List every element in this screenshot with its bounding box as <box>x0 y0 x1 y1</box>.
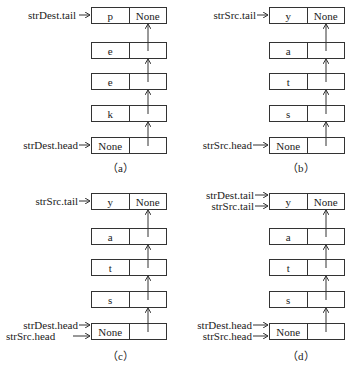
node-value: t <box>270 74 308 89</box>
panel-b: strSrc.tail strSrc.head y None a t s Non… <box>178 0 355 180</box>
strsrc-head-label: strSrc.head <box>182 139 252 151</box>
list-node: t <box>269 259 345 276</box>
strsrc-tail-label: strSrc.tail <box>18 195 78 207</box>
caption-a: （a） <box>107 159 134 175</box>
caption-b: （b） <box>287 159 315 175</box>
node-next <box>130 324 167 339</box>
node-value: y <box>270 194 308 209</box>
panel-d: strDest.tail strSrc.tail strDest.head st… <box>178 186 355 368</box>
list-node: t <box>269 73 345 90</box>
list-node: None <box>269 323 345 340</box>
list-node: s <box>269 105 345 122</box>
node-value: e <box>92 43 130 58</box>
panel-a: strDest.tail strDest.head p None e e k N… <box>0 0 178 180</box>
node-next <box>308 138 345 153</box>
node-next: None <box>308 194 345 209</box>
node-value: e <box>92 74 130 89</box>
node-value: s <box>92 292 130 307</box>
node-next <box>130 138 167 153</box>
node-value: None <box>270 138 308 153</box>
caption-d: （d） <box>287 347 315 363</box>
node-next <box>130 260 167 275</box>
node-next: None <box>130 194 167 209</box>
node-next: None <box>308 8 345 23</box>
list-node: p None <box>91 7 167 24</box>
list-node: y None <box>269 7 345 24</box>
node-next <box>308 260 345 275</box>
list-node: None <box>269 137 345 154</box>
list-node: None <box>91 137 167 154</box>
list-node: e <box>91 73 167 90</box>
list-node: None <box>91 323 167 340</box>
node-value: None <box>92 324 130 339</box>
node-next <box>308 106 345 121</box>
node-next <box>308 229 345 244</box>
node-value: y <box>92 194 130 209</box>
node-next <box>130 43 167 58</box>
node-value: a <box>92 229 130 244</box>
node-next <box>130 106 167 121</box>
list-node: y None <box>91 193 167 210</box>
strdest-head-label: strDest.head <box>6 139 78 151</box>
node-next <box>308 324 345 339</box>
node-next <box>308 74 345 89</box>
list-node: e <box>91 42 167 59</box>
node-next <box>130 292 167 307</box>
node-value: s <box>270 292 308 307</box>
node-value: k <box>92 106 130 121</box>
strsrc-tail-label: strSrc.tail <box>194 200 254 212</box>
list-node: s <box>269 291 345 308</box>
node-value: None <box>270 324 308 339</box>
list-node: y None <box>269 193 345 210</box>
node-next <box>308 292 345 307</box>
list-node: a <box>91 228 167 245</box>
node-value: p <box>92 8 130 23</box>
list-node: s <box>91 291 167 308</box>
list-node: a <box>269 42 345 59</box>
strsrc-tail-label: strSrc.tail <box>196 9 256 21</box>
list-node: a <box>269 228 345 245</box>
node-value: t <box>270 260 308 275</box>
list-node: k <box>91 105 167 122</box>
node-value: None <box>92 138 130 153</box>
node-value: y <box>270 8 308 23</box>
list-node: t <box>91 259 167 276</box>
node-next <box>130 74 167 89</box>
strdest-tail-label: strDest.tail <box>14 9 76 21</box>
caption-c: （c） <box>107 347 134 363</box>
node-next: None <box>130 8 167 23</box>
node-value: a <box>270 229 308 244</box>
strsrc-head-label: strSrc.head <box>186 330 252 342</box>
node-next <box>308 43 345 58</box>
strsrc-head-label: strSrc.head <box>6 330 72 342</box>
node-next <box>130 229 167 244</box>
panel-c: strSrc.tail strDest.head strSrc.head y N… <box>0 186 178 368</box>
node-value: t <box>92 260 130 275</box>
node-value: a <box>270 43 308 58</box>
node-value: s <box>270 106 308 121</box>
